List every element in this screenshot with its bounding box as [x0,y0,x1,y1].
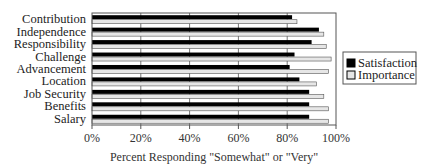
legend-swatch-satisfaction [347,59,355,67]
bar-satisfaction [92,102,309,106]
x-tick-label: 100% [322,131,350,145]
bar-importance [92,57,331,61]
bar-importance [92,94,324,98]
bar-satisfaction [92,90,309,94]
bar-satisfaction [92,53,295,57]
legend: Satisfaction Importance [343,52,418,84]
bar-satisfaction [92,115,309,119]
bar-importance [92,107,329,111]
legend-label-importance: Importance [358,68,415,82]
x-axis-ticks: 0%20%40%60%80%100% [84,125,350,145]
bar-satisfaction [92,77,299,81]
legend-swatch-importance [347,71,355,79]
x-tick-label: 40% [179,131,201,145]
bar-satisfaction [92,28,319,32]
x-axis-label: Percent Responding "Somewhat" or "Very" [110,150,318,164]
bar-importance [92,69,329,73]
bar-satisfaction [92,15,292,19]
bar-importance [92,32,324,36]
x-tick-label: 0% [84,131,100,145]
bar-importance [92,82,316,86]
category-label: Salary [54,112,87,126]
bar-chart: ContributionIndependenceResponsibilityCh… [0,0,433,168]
bar-importance [92,20,297,24]
category-labels: ContributionIndependenceResponsibilityCh… [14,12,87,126]
bar-importance [92,45,326,49]
bar-satisfaction [92,40,312,44]
x-tick-label: 80% [276,131,298,145]
bar-importance [92,119,329,123]
bar-satisfaction [92,65,290,69]
bars [92,15,331,123]
x-tick-label: 20% [130,131,152,145]
x-tick-label: 60% [227,131,249,145]
